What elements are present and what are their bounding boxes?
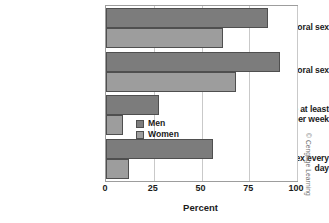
bar-men-2 [106,95,159,115]
bar-women-2 [106,115,123,135]
bar-women-3 [106,159,129,179]
legend-item-men: Men [136,119,179,128]
bar-women-0 [106,28,223,48]
legend-label-men: Men [148,119,165,128]
x-tick-label-50: 50 [195,183,205,193]
x-tick-label-25: 25 [148,183,158,193]
x-tick-label-0: 0 [102,183,107,193]
legend-label-women: Women [148,130,179,139]
bar-chart-figure: Like to perform oral sexLike to receive … [0,0,329,223]
legend-swatch-men-icon [136,120,144,128]
bar-men-3 [106,139,213,159]
x-axis-label: Percent [105,202,296,213]
bar-men-1 [106,52,280,72]
copyright-credit: © Cengage Learning [305,133,312,196]
bar-men-0 [106,8,268,28]
plot-area [105,5,298,182]
gridline-100 [297,6,298,181]
bar-women-1 [106,72,236,92]
x-tick-label-75: 75 [243,183,253,193]
legend-swatch-women-icon [136,131,144,139]
x-tick-label-100: 100 [288,183,303,193]
legend: Men Women [136,119,179,141]
gridline-75 [249,6,250,181]
legend-item-women: Women [136,130,179,139]
